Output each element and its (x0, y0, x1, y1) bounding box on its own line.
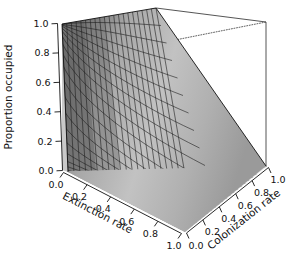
x-tick-label: 0.0 (48, 179, 63, 190)
x-tick-label: 1.0 (166, 240, 181, 251)
z-tick-label: 0.6 (35, 77, 50, 88)
z-axis-ticks (52, 24, 63, 171)
y-tick-label: 0.0 (188, 240, 203, 251)
surface-plot-figure: 1.0 0.8 0.6 0.4 0.2 0.0 Proportion occup… (0, 0, 289, 262)
z-tick-label: 0.2 (37, 136, 52, 147)
z-tick-label: 1.0 (33, 18, 48, 29)
x-tick-label: 0.8 (143, 228, 158, 239)
z-tick-label: 0.0 (38, 165, 53, 176)
z-axis-title: Proportion occupied (2, 45, 14, 150)
z-tick-label: 0.8 (34, 47, 49, 58)
z-axis: 1.0 0.8 0.6 0.4 0.2 0.0 Proportion occup… (2, 18, 63, 176)
z-tick-label: 0.4 (36, 106, 51, 117)
y-tick-label: 1.0 (270, 174, 285, 185)
